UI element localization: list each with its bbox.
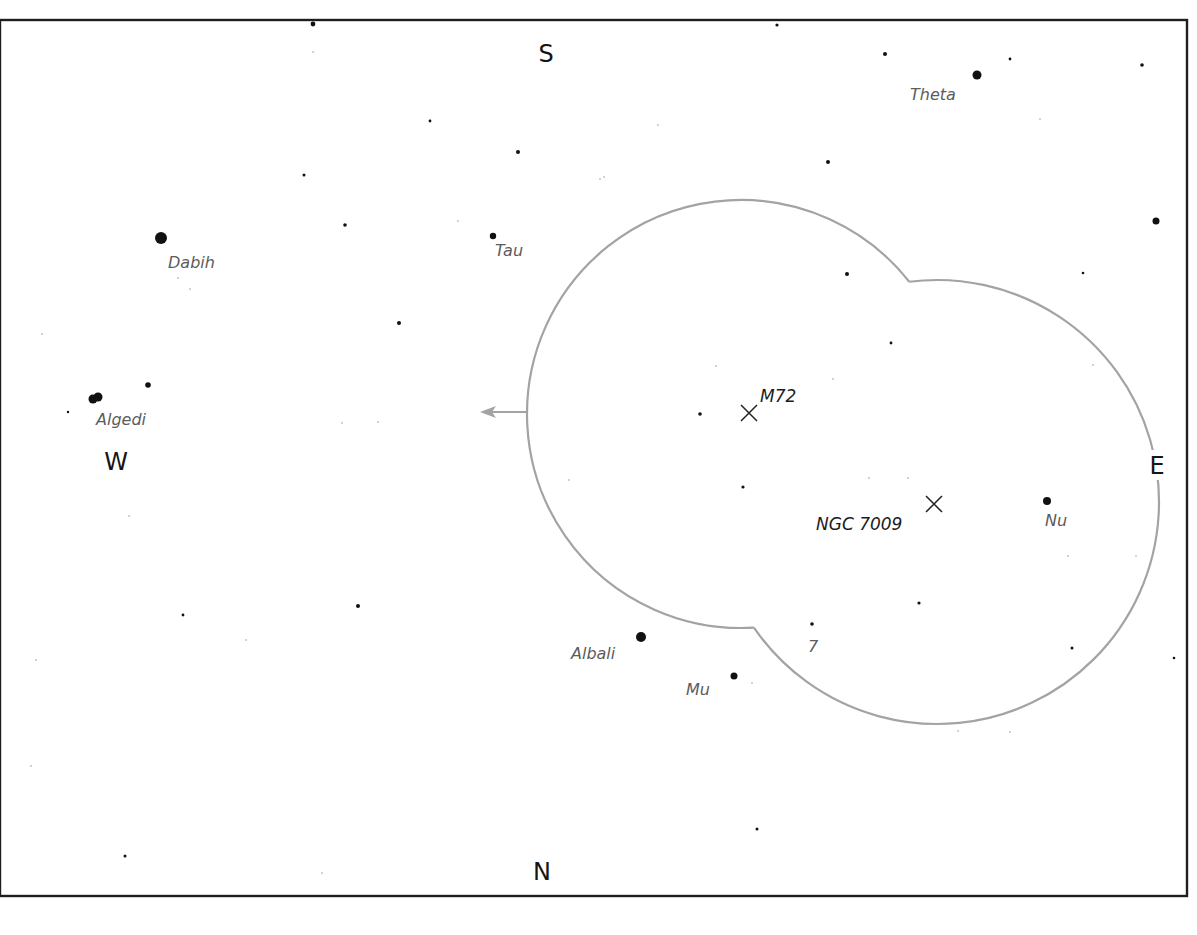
- faint-star: [603, 176, 605, 178]
- deep-sky-objects: M72NGC 7009: [741, 386, 942, 534]
- star: [1082, 272, 1085, 275]
- star-dot: [1043, 497, 1051, 505]
- faint-star: [657, 124, 659, 126]
- named-star-theta: Theta: [910, 71, 982, 105]
- star: [826, 160, 830, 164]
- faint-star: [907, 477, 909, 479]
- dso-label: NGC 7009: [816, 514, 902, 534]
- star: [1153, 218, 1160, 225]
- faint-star: [1067, 555, 1069, 557]
- named-star-seven: 7: [808, 622, 819, 656]
- star-label: Algedi: [95, 410, 147, 429]
- star: [1009, 58, 1012, 61]
- field-of-view-outline: [527, 200, 1159, 724]
- faint-star: [751, 682, 753, 684]
- direction-arrow: [480, 406, 528, 418]
- faint-star: [177, 277, 179, 279]
- faint-star: [377, 421, 379, 423]
- cardinal-south: S: [538, 40, 553, 68]
- cross-marker-icon: [741, 405, 757, 421]
- star-label: Theta: [910, 85, 956, 104]
- star: [429, 120, 432, 123]
- star-label: 7: [808, 637, 819, 656]
- chart-frame: [0, 20, 1187, 896]
- star: [741, 485, 744, 488]
- faint-star: [715, 365, 717, 367]
- cardinal-west: W: [104, 448, 128, 476]
- named-stars: ThetaDabihTauAlgediNuAlbaliMu7: [89, 71, 1068, 700]
- faint-star: [1009, 731, 1011, 733]
- named-star-algedi: Algedi: [89, 395, 147, 430]
- named-star-tau: Tau: [490, 233, 523, 260]
- star: [124, 855, 127, 858]
- star: [67, 411, 69, 413]
- star: [1173, 657, 1176, 660]
- star: [1071, 647, 1074, 650]
- faint-star: [957, 730, 959, 732]
- star: [845, 272, 849, 276]
- cross-marker-icon: [926, 496, 942, 512]
- star-dot: [490, 233, 496, 239]
- named-star-albali: Albali: [570, 632, 646, 663]
- dso-label: M72: [760, 386, 796, 406]
- star-label: Dabih: [168, 253, 215, 272]
- faint-star: [189, 288, 191, 290]
- faint-star: [832, 378, 834, 380]
- star-dot: [636, 632, 646, 642]
- named-star-mu: Mu: [686, 673, 738, 700]
- star: [343, 223, 347, 227]
- faint-star: [457, 220, 459, 222]
- named-star-nu: Nu: [1043, 497, 1067, 530]
- fov-circle-m72: [527, 200, 909, 628]
- dso-ngc7009: NGC 7009: [816, 496, 942, 534]
- star: [756, 828, 759, 831]
- faint-star: [35, 659, 37, 661]
- cardinal-east: E: [1149, 452, 1164, 480]
- star: [145, 382, 151, 388]
- cardinal-directions: SWEN: [104, 40, 1169, 886]
- stars: [67, 22, 1175, 858]
- faint-star: [568, 479, 570, 481]
- faint-star: [868, 477, 870, 479]
- faint-star: [1039, 118, 1041, 120]
- star: [890, 342, 893, 345]
- star-dot: [89, 395, 98, 404]
- star: [303, 174, 306, 177]
- star: [356, 604, 360, 608]
- star: [775, 23, 778, 26]
- star: [698, 412, 702, 416]
- star: [182, 614, 185, 617]
- faint-star: [341, 422, 343, 424]
- star: [917, 601, 920, 604]
- star: [1140, 63, 1144, 67]
- star-dot: [731, 673, 738, 680]
- faint-star: [599, 178, 601, 180]
- faint-star: [41, 333, 43, 335]
- faint-star: [1135, 555, 1137, 557]
- star-label: Albali: [570, 644, 616, 663]
- faint-star: [30, 765, 32, 767]
- star: [311, 22, 316, 27]
- faint-star: [312, 51, 314, 53]
- star: [883, 52, 887, 56]
- star: [397, 321, 401, 325]
- faint-star: [321, 872, 323, 874]
- star-label: Nu: [1045, 511, 1067, 530]
- faint-star: [128, 515, 130, 517]
- star-label: Tau: [495, 241, 523, 260]
- star: [516, 150, 520, 154]
- dso-m72: M72: [741, 386, 796, 421]
- finder-chart: ThetaDabihTauAlgediNuAlbaliMu7 M72NGC 70…: [0, 0, 1197, 935]
- cardinal-north: N: [533, 858, 551, 886]
- faint-star: [245, 639, 247, 641]
- star-dot: [810, 622, 814, 626]
- faint-stars: [30, 51, 1137, 874]
- star-dot: [973, 71, 982, 80]
- fov-circle-ngc7009: [754, 280, 1159, 724]
- named-star-dabih: Dabih: [155, 232, 215, 272]
- faint-star: [1092, 364, 1094, 366]
- star-label: Mu: [686, 680, 710, 699]
- star-dot: [155, 232, 167, 244]
